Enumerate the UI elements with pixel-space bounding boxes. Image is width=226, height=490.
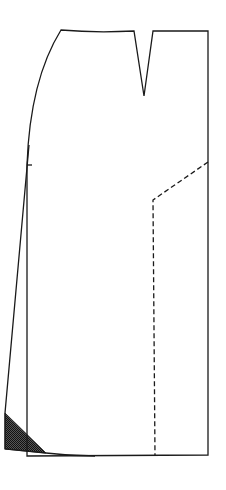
- dashed-style-line: [153, 162, 208, 456]
- side-seam-flare-line: [5, 145, 95, 456]
- pattern-diagram: [0, 0, 226, 490]
- pattern-svg: [0, 0, 226, 490]
- skirt-pattern-outline: [27, 30, 208, 456]
- hem-flare-shaded-wedge: [5, 413, 46, 453]
